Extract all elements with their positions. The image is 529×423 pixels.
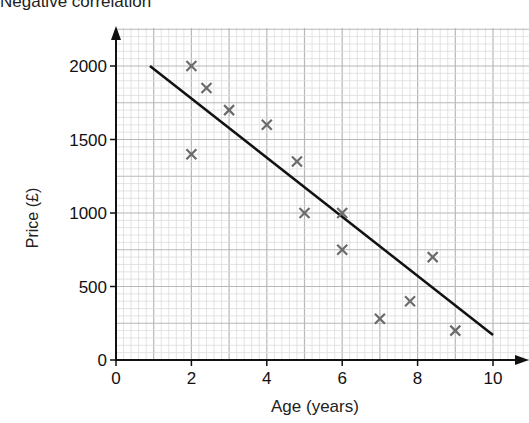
x-tick-label: 10	[484, 369, 503, 388]
y-tick-label: 500	[79, 278, 107, 297]
y-tick-label: 1000	[69, 204, 107, 223]
y-axis-arrow-icon	[111, 26, 121, 40]
x-axis-arrow-icon	[515, 355, 529, 365]
y-tick-label: 0	[98, 351, 107, 370]
y-tick-label: 1500	[69, 131, 107, 150]
x-tick-label: 4	[262, 369, 271, 388]
x-tick-label: 6	[337, 369, 346, 388]
y-tick-label: 2000	[69, 57, 107, 76]
scatter-plot: 02468100500100015002000	[0, 0, 529, 423]
grid	[116, 28, 529, 360]
x-tick-label: 2	[187, 369, 196, 388]
x-tick-label: 8	[413, 369, 422, 388]
line-of-best-fit	[150, 66, 493, 335]
fit-line	[150, 66, 493, 335]
x-tick-label: 0	[111, 369, 120, 388]
